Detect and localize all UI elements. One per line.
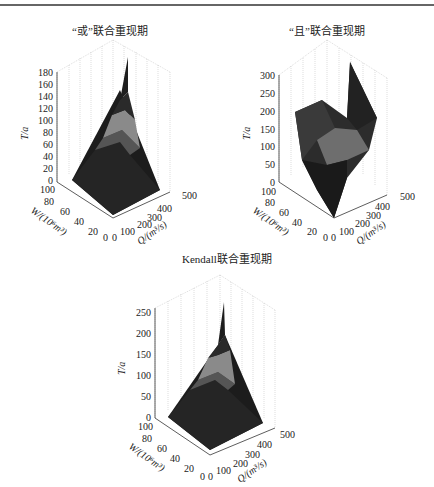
svg-text:20: 20 — [88, 226, 98, 237]
svg-text:60: 60 — [279, 207, 289, 218]
svg-text:200: 200 — [136, 328, 151, 339]
svg-text:20: 20 — [184, 463, 194, 474]
svg-text:200: 200 — [260, 106, 275, 117]
svg-text:60: 60 — [157, 443, 167, 454]
svg-text:300: 300 — [260, 70, 275, 81]
surface-plot: 250200150100 500 T/a 100806040200 010020… — [100, 240, 334, 487]
svg-text:40: 40 — [170, 453, 180, 464]
svg-text:100: 100 — [260, 141, 275, 152]
chart-title: “且”联合重现期 — [289, 22, 365, 38]
svg-text:250: 250 — [136, 307, 151, 318]
z-axis-label: T/a — [116, 362, 127, 375]
svg-text:20: 20 — [307, 226, 317, 237]
svg-text:180: 180 — [38, 67, 53, 78]
svg-text:100: 100 — [261, 186, 276, 197]
svg-text:150: 150 — [260, 124, 275, 135]
svg-text:500: 500 — [280, 429, 295, 440]
svg-text:150: 150 — [136, 349, 151, 360]
svg-text:100: 100 — [136, 370, 151, 381]
z-axis-label: T/a — [19, 127, 30, 140]
svg-text:100: 100 — [216, 465, 231, 476]
chart-title: Kendall联合重现期 — [182, 250, 272, 266]
svg-text:80: 80 — [44, 196, 54, 207]
svg-text:80: 80 — [142, 433, 152, 444]
svg-text:100: 100 — [40, 184, 55, 195]
svg-text:400: 400 — [375, 201, 390, 212]
svg-text:80: 80 — [265, 197, 275, 208]
svg-text:100: 100 — [339, 226, 354, 237]
svg-text:50: 50 — [141, 391, 151, 402]
svg-text:250: 250 — [260, 88, 275, 99]
svg-text:120: 120 — [38, 103, 53, 114]
svg-text:40: 40 — [292, 217, 302, 228]
svg-text:60: 60 — [43, 139, 53, 150]
svg-text:20: 20 — [43, 163, 53, 174]
svg-text:0: 0 — [200, 471, 205, 482]
chart-kendall-return-period: Kendall联合重现期 250200150100 500 T/a 100806 — [100, 240, 334, 487]
svg-text:40: 40 — [43, 151, 53, 162]
chart-and-return-period: “且”联合重现期 300250200150 100500 T/a 1008060… — [217, 0, 434, 245]
svg-text:40: 40 — [74, 216, 84, 227]
svg-text:60: 60 — [60, 206, 70, 217]
svg-text:80: 80 — [43, 127, 53, 138]
svg-text:160: 160 — [38, 79, 53, 90]
svg-text:50: 50 — [265, 159, 275, 170]
chart-or-return-period: “或”联合重现期 180160140120100 806040200 — [0, 0, 217, 245]
chart-title: “或”联合重现期 — [72, 22, 148, 38]
z-axis-label: T/a — [241, 127, 252, 140]
svg-text:400: 400 — [257, 439, 272, 450]
svg-text:100: 100 — [138, 421, 153, 432]
svg-text:400: 400 — [157, 203, 172, 214]
svg-text:0: 0 — [208, 471, 213, 482]
svg-text:500: 500 — [182, 190, 197, 201]
svg-text:100: 100 — [38, 115, 53, 126]
svg-text:100: 100 — [120, 226, 135, 237]
svg-text:140: 140 — [38, 91, 53, 102]
svg-text:300: 300 — [245, 449, 260, 460]
svg-text:500: 500 — [400, 191, 415, 202]
